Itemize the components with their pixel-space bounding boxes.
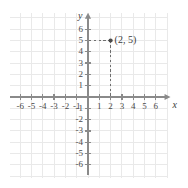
y-tick-label: 2 bbox=[64, 70, 83, 79]
y-axis-arrowhead bbox=[85, 13, 91, 19]
y-tick-label: -6 bbox=[64, 160, 83, 169]
y-tick-label: 5 bbox=[64, 36, 83, 45]
y-tick-label: 4 bbox=[64, 47, 83, 56]
y-tick-label: 6 bbox=[64, 25, 83, 34]
point-coordinate-label: (2, 5) bbox=[115, 35, 137, 45]
plotted-points bbox=[109, 38, 113, 42]
y-tick-label: 1 bbox=[64, 81, 83, 90]
y-axis-label: y bbox=[78, 11, 82, 21]
graph-canvas bbox=[0, 0, 188, 188]
y-tick-label: -1 bbox=[64, 104, 83, 113]
coordinate-plane-figure: -6-5-4-3-2-1123456 654321-1-2-3-4-5-6 (2… bbox=[0, 0, 188, 188]
y-tick-label: -5 bbox=[64, 149, 83, 158]
y-tick-label: -3 bbox=[64, 126, 83, 135]
data-point-marker bbox=[109, 38, 113, 42]
axis-lines bbox=[10, 13, 171, 175]
x-axis-label: x bbox=[173, 100, 177, 110]
x-tick-label: 6 bbox=[146, 102, 166, 111]
y-tick-label: 3 bbox=[64, 59, 83, 68]
y-tick-label: -2 bbox=[64, 115, 83, 124]
y-tick-label: -4 bbox=[64, 138, 83, 147]
